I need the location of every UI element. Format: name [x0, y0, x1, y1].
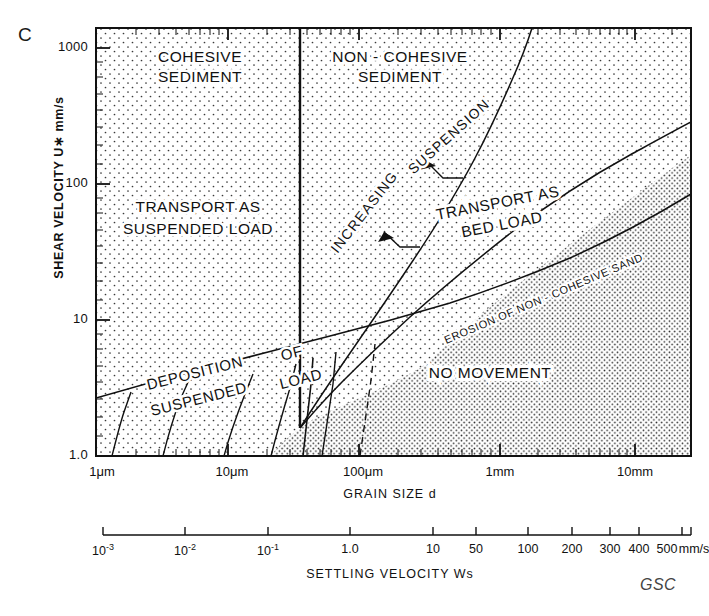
- svg-text:SEDIMENT: SEDIMENT: [158, 68, 242, 85]
- svg-text:NON - COHESIVE: NON - COHESIVE: [332, 48, 467, 65]
- svg-text:TRANSPORT AS: TRANSPORT AS: [135, 198, 260, 215]
- settling-velocity-axis: [103, 527, 691, 535]
- svg-text:SUSPENDED LOAD: SUSPENDED LOAD: [123, 220, 273, 237]
- svg-text:SEDIMENT: SEDIMENT: [358, 68, 442, 85]
- svg-text:NO MOVEMENT: NO MOVEMENT: [429, 364, 552, 381]
- region-label-no-movement: NO MOVEMENT: [429, 364, 552, 381]
- svg-text:COHESIVE: COHESIVE: [158, 48, 242, 65]
